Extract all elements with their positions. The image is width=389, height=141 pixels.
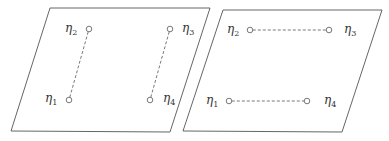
left-label-subscript-eta2: 2 <box>72 28 77 37</box>
right-node-eta4 <box>304 98 310 104</box>
right-plane-panel: η1η2η3η4 <box>183 10 382 132</box>
right-node-eta1 <box>226 98 232 104</box>
left-label-subscript-eta3: 3 <box>189 28 194 37</box>
diagram-canvas: η1η2η3η4 η1η2η3η4 <box>0 0 389 141</box>
right-node-eta2 <box>247 27 253 33</box>
right-label-subscript-eta3: 3 <box>351 29 356 38</box>
left-plane-panel: η1η2η3η4 <box>11 8 210 132</box>
left-label-subscript-eta4: 4 <box>170 98 175 107</box>
left-plane <box>11 8 210 132</box>
right-label-subscript-eta4: 4 <box>331 100 336 109</box>
left-node-eta4 <box>147 97 153 103</box>
left-label-subscript-eta1: 1 <box>52 98 57 107</box>
right-node-eta3 <box>326 27 332 33</box>
left-node-eta1 <box>66 97 72 103</box>
left-node-eta3 <box>167 26 173 32</box>
left-node-eta2 <box>86 26 92 32</box>
right-label-subscript-eta1: 1 <box>213 100 218 109</box>
right-label-subscript-eta2: 2 <box>234 29 239 38</box>
